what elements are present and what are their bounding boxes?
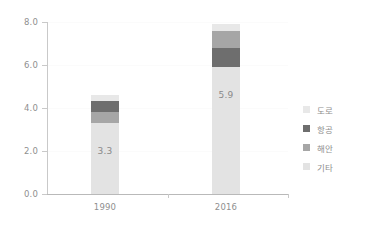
y-tick-mark-2: [42, 151, 47, 152]
y-tick-label-6: 6.0: [24, 60, 38, 70]
legend-swatch-icon-도로: [303, 106, 310, 113]
bar-segment-2016-도로[interactable]: [212, 24, 240, 31]
bar-segment-2016-항공[interactable]: [212, 48, 240, 67]
legend-item-도로[interactable]: 도로: [303, 100, 333, 119]
legend-item-항공[interactable]: 항공: [303, 119, 333, 138]
legend-swatch-icon-기타: [303, 163, 310, 170]
gridline-2: [47, 151, 288, 152]
bar-segment-1990-항공[interactable]: [91, 101, 119, 112]
gridline-6: [47, 65, 288, 66]
bar-value-label-2016: 5.9: [212, 90, 240, 100]
legend-item-기타[interactable]: 기타: [303, 157, 333, 176]
x-tick-mark-end: [288, 194, 289, 198]
y-tick-label-2: 2.0: [24, 146, 38, 156]
legend-label-기타: 기타: [317, 161, 333, 173]
y-axis-line: [47, 22, 48, 194]
y-tick-mark-6: [42, 65, 47, 66]
legend-label-도로: 도로: [317, 104, 333, 116]
bar-segment-1990-도로[interactable]: [91, 95, 119, 101]
y-tick-label-4: 4.0: [24, 103, 38, 113]
x-tick-mark-mid: [168, 194, 169, 198]
gridline-4: [47, 108, 288, 109]
bar-segment-2016-기타[interactable]: [212, 67, 240, 194]
gridline-8: [47, 22, 288, 23]
legend: 도로 항공 해안 기타: [303, 100, 333, 176]
legend-label-해안: 해안: [317, 142, 333, 154]
bar-segment-2016-해안[interactable]: [212, 31, 240, 48]
legend-swatch-icon-해안: [303, 144, 310, 151]
y-tick-mark-0: [42, 194, 47, 195]
plot-area: 3.3 5.9: [47, 22, 288, 194]
x-tick-label-1990: 1990: [94, 202, 116, 212]
bar-value-label-1990: 3.3: [91, 146, 119, 156]
x-tick-label-2016: 2016: [215, 202, 237, 212]
bar-segment-1990-기타[interactable]: [91, 123, 119, 194]
legend-swatch-icon-항공: [303, 125, 310, 132]
y-tick-mark-4: [42, 108, 47, 109]
y-tick-label-8: 8.0: [24, 17, 38, 27]
y-tick-label-0: 0.0: [24, 189, 38, 199]
stacked-bar-chart: 3.3 5.9 8.0 6.0 4.0 2.0 0.0 1990 2016: [0, 0, 369, 230]
y-tick-mark-8: [42, 22, 47, 23]
bar-segment-1990-해안[interactable]: [91, 112, 119, 123]
legend-item-해안[interactable]: 해안: [303, 138, 333, 157]
legend-label-항공: 항공: [317, 123, 333, 135]
